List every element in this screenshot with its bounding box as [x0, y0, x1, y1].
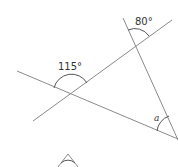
angle-80-label: 80°: [135, 16, 153, 27]
angle-115-label: 115°: [58, 61, 82, 72]
line-c: [123, 18, 178, 140]
angle-diagram: 115° 80° a: [0, 0, 178, 167]
line-a: [33, 20, 172, 121]
line-b: [17, 71, 178, 139]
angle-a-label: a: [154, 113, 159, 123]
